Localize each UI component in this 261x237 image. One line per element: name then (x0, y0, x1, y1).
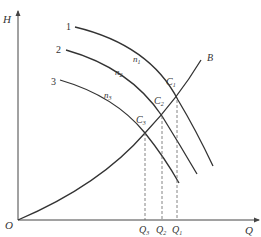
x-axis-label: Q (245, 224, 253, 236)
origin-label: O (5, 219, 13, 231)
operating-point-c3: C3 (136, 114, 146, 126)
flow-label-q2: Q2 (156, 224, 166, 236)
c1-sub: 1 (173, 82, 176, 88)
c2-sub: 2 (161, 101, 164, 107)
flow-label-q3: Q3 (139, 224, 149, 236)
operating-point-c2: C2 (154, 95, 164, 107)
pump-curve-3-label: 3 (51, 76, 56, 87)
pump-curve-1 (75, 27, 213, 166)
speed-n3-sub: 3 (108, 95, 112, 101)
pump-characteristic-diagram: H Q O 1 n1 2 n2 3 n3 B C1 C2 C3 Q3 Q2 Q1 (0, 0, 261, 237)
q1-sub: 1 (179, 230, 182, 236)
pump-curve-3 (60, 80, 179, 183)
pump-curve-1-label: 1 (66, 21, 71, 32)
q3-sub: 3 (145, 230, 149, 236)
system-curve-label: B (207, 52, 213, 63)
speed-label-n2: n2 (115, 67, 123, 78)
pump-curve-2-label: 2 (56, 44, 61, 55)
c3-sub: 3 (142, 120, 146, 126)
y-axis-label: H (2, 13, 12, 25)
flow-label-q1: Q1 (172, 224, 182, 236)
operating-point-c1: C1 (166, 76, 176, 88)
q2-sub: 2 (163, 230, 166, 236)
speed-n1-sub: 1 (138, 59, 141, 65)
speed-n2-sub: 2 (120, 72, 123, 78)
speed-label-n3: n3 (104, 90, 112, 101)
